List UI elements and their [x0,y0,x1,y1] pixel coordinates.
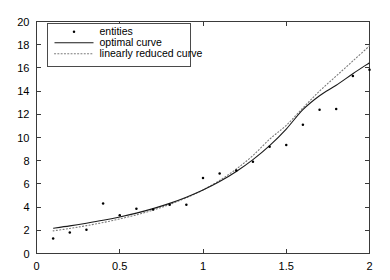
data-point [102,202,105,205]
x-tick-label: 0.5 [112,260,127,272]
x-tick-label: 1 [200,260,206,272]
data-point [52,237,55,240]
y-tick-label: 10 [17,132,29,144]
data-point [252,161,255,164]
scatter-plot: 00.511.52 02468101214161820 entitiesopti… [0,0,390,280]
y-tick-label: 12 [17,108,29,120]
data-point [285,144,288,147]
data-point [335,108,338,111]
data-point [85,228,88,231]
y-tick-label: 8 [23,155,29,167]
y-tick-label: 14 [17,85,29,97]
data-point [152,208,155,211]
data-point [352,75,355,78]
data-point [202,177,205,180]
x-tick-label: 0 [33,260,39,272]
data-point [135,208,138,211]
data-point [268,146,271,149]
legend-label: linearly reduced curve [100,47,203,59]
chart-figure: 00.511.52 02468101214161820 entitiesopti… [0,0,390,280]
data-point [218,172,221,175]
data-point [168,204,171,207]
y-tick-label: 18 [17,39,29,51]
data-point [185,204,188,207]
y-tick-label: 0 [23,248,29,260]
y-tick-label: 16 [17,62,29,74]
y-tick-label: 20 [17,16,29,28]
y-tick-label: 6 [23,178,29,190]
chart-legend: entitiesoptimal curvelinearly reduced cu… [48,24,203,67]
y-tick-label: 4 [23,201,29,213]
data-point [302,123,305,126]
data-point [119,214,122,217]
y-tick-label: 2 [23,224,29,236]
legend-marker-entities [73,31,76,34]
x-tick-label: 2 [366,260,372,272]
data-point [69,231,72,234]
data-point [235,169,238,172]
data-point [368,68,371,71]
x-tick-label: 1.5 [279,260,294,272]
data-point [318,108,321,111]
